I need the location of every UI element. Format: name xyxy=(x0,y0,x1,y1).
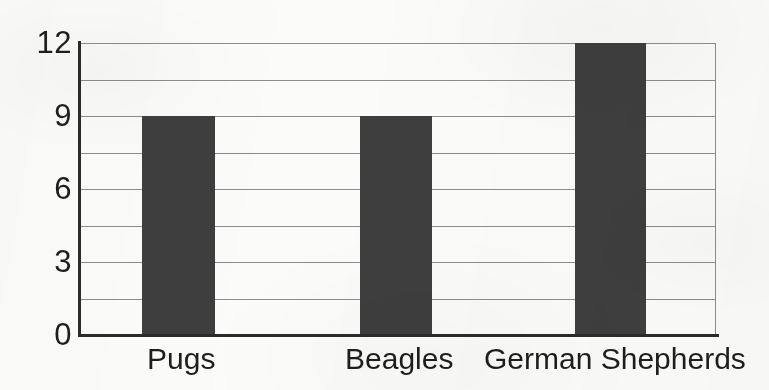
y-axis-line xyxy=(78,41,81,337)
y-axis-tick-label: 6 xyxy=(12,173,72,204)
x-axis-category-label: Pugs xyxy=(147,344,215,374)
bar-chart-screenshot: 036912 PugsBeaglesGerman Shepherds xyxy=(0,0,769,390)
plot-area xyxy=(80,43,716,335)
plot-right-border xyxy=(715,43,716,335)
bar-chart: 036912 PugsBeaglesGerman Shepherds xyxy=(0,0,769,390)
bar xyxy=(142,116,215,335)
bar xyxy=(575,43,646,335)
y-axis-tick-label: 12 xyxy=(12,27,72,58)
x-axis-line xyxy=(78,334,719,337)
y-axis-tick-labels: 036912 xyxy=(8,0,72,390)
bar xyxy=(360,116,432,335)
y-axis-tick-label: 9 xyxy=(12,100,72,131)
y-axis-tick-label: 0 xyxy=(12,319,72,350)
x-axis-category-label: German Shepherds xyxy=(484,344,746,374)
x-axis-category-label: Beagles xyxy=(345,344,453,374)
y-axis-tick-label: 3 xyxy=(12,246,72,277)
